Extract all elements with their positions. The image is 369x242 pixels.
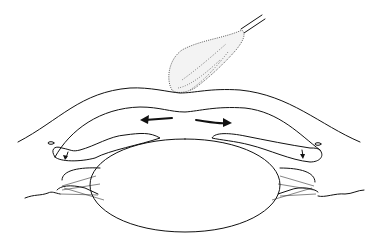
cornea-outer bbox=[18, 88, 360, 142]
vessel-mark-left bbox=[48, 142, 54, 145]
flow-arrow-right bbox=[196, 118, 232, 127]
sclera-left bbox=[25, 192, 60, 198]
flow-arrow-left bbox=[140, 115, 172, 124]
small-arrow-right bbox=[300, 150, 305, 159]
cornea-inner bbox=[55, 107, 320, 157]
zonules-left bbox=[60, 176, 104, 200]
diagram-svg bbox=[0, 0, 369, 242]
sponge-tip bbox=[169, 30, 244, 92]
small-arrow-left bbox=[63, 152, 68, 160]
sponge-handle bbox=[241, 15, 265, 33]
lens bbox=[90, 139, 280, 232]
sclera-right bbox=[318, 190, 364, 196]
vessel-mark-right bbox=[315, 143, 321, 146]
eye-diagram bbox=[0, 0, 369, 242]
